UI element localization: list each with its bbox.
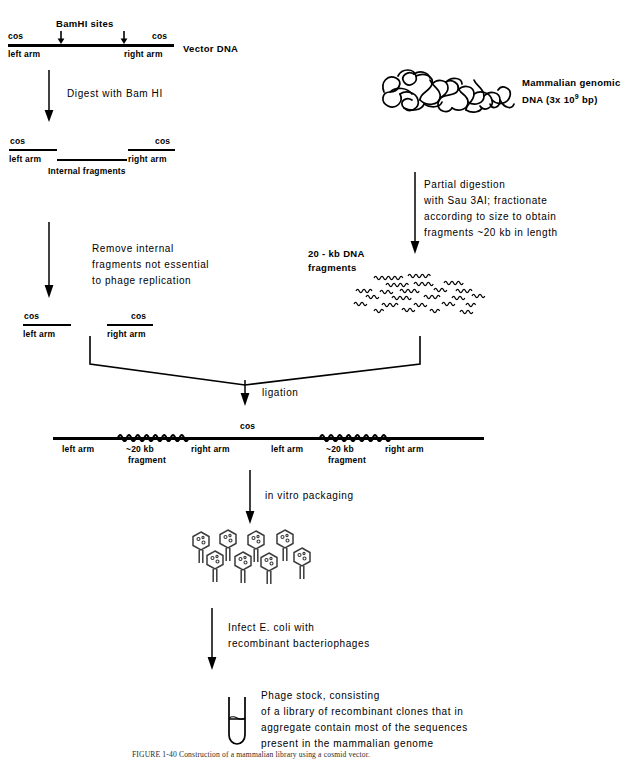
step3-label-line4: fragments ~20 kb in length <box>424 225 558 241</box>
step5-label-line1: Infect E. coli with <box>228 620 314 636</box>
vector-dna-label: Vector DNA <box>183 43 238 55</box>
internal-fragments-label: Internal fragments <box>48 166 126 176</box>
step4-down-arrow <box>243 470 257 524</box>
step2-label-line1: Remove internal <box>92 241 174 257</box>
bacteriophage-particles-group <box>190 530 320 586</box>
stage2-cos-right-label: cos <box>155 136 170 146</box>
concatemer-segment-label-3: right arm <box>191 444 230 454</box>
step1-label: Digest with Bam HI <box>67 86 163 102</box>
stock-label-line1: Phage stock, consisting <box>261 688 380 704</box>
concatemer-segment-label-5: ~20 kb <box>326 444 354 454</box>
step2-label-line3: to phage replication <box>92 273 191 289</box>
step3-label-line1: Partial digestion <box>424 177 505 193</box>
step4-label: in vitro packaging <box>265 488 354 504</box>
stage3-left-arm-label: left arm <box>23 329 55 339</box>
vector-dna-line <box>8 44 174 47</box>
ligation-funnel-connector <box>80 336 430 398</box>
stage2-left-arm-line <box>9 149 57 151</box>
fragments-label-line2: fragments <box>308 262 357 274</box>
internal-fragment-line <box>57 159 127 161</box>
concatemer-fragment-squiggle-1 <box>118 431 190 443</box>
genomic-dna-label-line2: DNA (3x 109 bp) <box>522 91 598 106</box>
stage3-right-arm-line <box>107 324 153 326</box>
bamhi-site-arrow-2 <box>118 31 130 44</box>
stock-label-line3: aggregate contain most of the sequences <box>261 720 468 736</box>
step2-label-line2: fragments not essential <box>92 257 209 273</box>
concatemer-fragment-squiggle-2 <box>320 431 392 443</box>
genomic-dna-label-post: bp) <box>579 94 598 105</box>
genomic-dna-label-line1: Mammalian genomic <box>522 77 621 89</box>
step1-down-arrow <box>42 70 56 122</box>
ligation-down-arrow <box>238 380 252 406</box>
stage1-left-arm-label: left arm <box>8 49 40 59</box>
stage2-right-arm-line <box>128 149 175 151</box>
concatemer-segment-sub-2: fragment <box>128 455 166 465</box>
stage3-left-arm-line <box>23 324 71 326</box>
stage1-cos-right-label: cos <box>152 31 167 41</box>
dna-fragments-pile-icon <box>352 272 492 320</box>
test-tube-icon <box>224 695 250 747</box>
step5-down-arrow <box>205 608 219 670</box>
step2-down-arrow <box>42 222 56 298</box>
concatemer-segment-sub-5: fragment <box>328 455 366 465</box>
stage3-cos-left-label: cos <box>24 311 39 321</box>
stage2-right-arm-label: right arm <box>128 154 167 164</box>
concatemer-segment-label-6: right arm <box>385 444 424 454</box>
bamhi-sites-label: BamHI sites <box>56 18 114 30</box>
tangled-dna-icon <box>378 62 516 122</box>
bamhi-site-arrow-1 <box>55 31 67 44</box>
fragments-label-line1: 20 - kb DNA <box>308 248 365 260</box>
stage3-cos-right-label: cos <box>131 311 146 321</box>
step5-label-line2: recombinant bacteriophages <box>228 636 370 652</box>
stage1-cos-left-label: cos <box>8 31 23 41</box>
stage2-left-arm-label: left arm <box>9 154 41 164</box>
stage1-right-arm-label: right arm <box>124 49 163 59</box>
step3-label-line3: according to size to obtain <box>424 209 556 225</box>
concatemer-cos-label: cos <box>240 421 255 431</box>
genomic-dna-label-pre: DNA (3x 10 <box>522 94 575 105</box>
figure-caption: FIGURE 1-40 Construction of a mammalian … <box>132 750 370 759</box>
stock-label-line2: of a library of recombinant clones that … <box>261 704 464 720</box>
step3-down-arrow <box>408 172 422 254</box>
concatemer-segment-label-4: left arm <box>271 444 303 454</box>
step3-label-line2: with Sau 3AI; fractionate <box>424 193 547 209</box>
concatemer-segment-label-2: ~20 kb <box>126 444 154 454</box>
ligation-label: ligation <box>262 385 299 401</box>
stage2-cos-left-label: cos <box>10 136 25 146</box>
concatemer-segment-label-1: left arm <box>62 444 94 454</box>
